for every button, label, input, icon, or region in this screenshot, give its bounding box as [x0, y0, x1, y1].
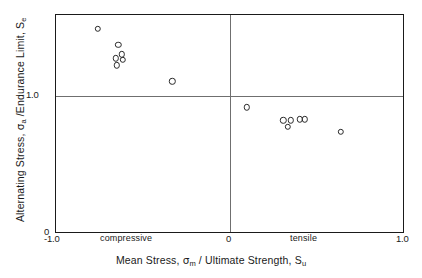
x-axis-title-prefix: Mean Stress, [116, 254, 183, 266]
data-point [280, 117, 286, 123]
data-point [115, 42, 121, 48]
y-axis-title: Alternating Stress, σa /Endurance Limit,… [14, 0, 28, 245]
scatter-plot-figure: 1.0 0 -1.0 0 1.0 compressive tensile Mea… [0, 0, 422, 278]
y-axis-title-sigma-subscript: a [19, 119, 28, 123]
data-point [302, 116, 308, 122]
y-axis-tick-1-0: 1.0 [26, 89, 39, 100]
y-axis-title-middle: /Endurance Limit, [14, 29, 26, 119]
data-point [244, 104, 250, 110]
x-axis-title: Mean Stress, σm / Ultimate Strength, Su [0, 254, 422, 268]
plot-area [55, 14, 404, 233]
y-axis-title-denominator: S [14, 22, 26, 29]
y-axis-title-prefix: Alternating Stress, [14, 130, 26, 222]
data-point [113, 55, 119, 61]
data-point [288, 117, 294, 123]
annotation-compressive: compressive [100, 233, 152, 243]
data-point [337, 128, 343, 134]
data-point [94, 25, 100, 31]
data-point [120, 57, 126, 63]
x-axis-title-middle: / Ultimate Strength, [196, 254, 295, 266]
x-axis-tick-0: 0 [226, 233, 231, 244]
y-axis-title-denominator-subscript: e [19, 18, 28, 22]
reference-line-vertical-0 [230, 15, 231, 232]
data-point [285, 124, 291, 130]
x-axis-title-denominator: S [295, 254, 302, 266]
x-axis-title-denominator-subscript: u [302, 259, 306, 268]
y-axis-title-sigma: σ [14, 124, 26, 131]
annotation-tensile: tensile [290, 233, 317, 243]
data-point [114, 62, 120, 68]
x-axis-tick-neg-1-0: -1.0 [44, 233, 60, 244]
data-point [169, 78, 175, 84]
x-axis-tick-1-0: 1.0 [396, 233, 409, 244]
